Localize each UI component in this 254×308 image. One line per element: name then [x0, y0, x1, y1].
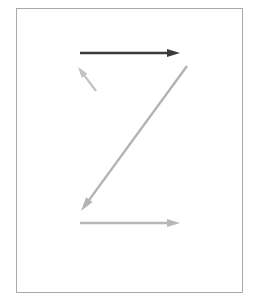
arrow-group — [78, 49, 187, 227]
long-diagonal-arrow-shaft — [89, 66, 187, 201]
bottom-horizontal-arrow-head — [167, 219, 180, 227]
arrow-canvas — [0, 0, 254, 308]
figure-root — [0, 0, 254, 308]
short-diagonal-arrow-shaft — [84, 75, 96, 91]
top-horizontal-arrow-head — [167, 49, 180, 57]
